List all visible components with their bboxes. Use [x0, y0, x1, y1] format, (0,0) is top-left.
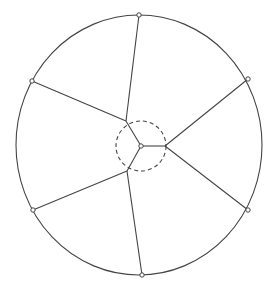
nodes-group: [30, 13, 250, 277]
edge-c-lb: [33, 171, 127, 210]
center-point: [139, 144, 143, 148]
diagram-canvas: [0, 0, 278, 288]
boundary-point-t: [137, 13, 141, 17]
boundary-point-lb: [31, 208, 35, 212]
boundary-point-rt: [246, 77, 250, 81]
edge-bj-rb: [165, 146, 248, 210]
edge-p-c: [127, 146, 141, 171]
edge-c-b: [127, 171, 142, 275]
edge-a-lt: [32, 81, 126, 121]
boundary-point-b: [140, 273, 144, 277]
edge-a-t: [126, 15, 139, 121]
edge-bj-rt: [165, 79, 248, 146]
boundary-point-rb: [246, 208, 250, 212]
edge-p-a: [126, 121, 141, 146]
boundary-point-lt: [30, 79, 34, 83]
